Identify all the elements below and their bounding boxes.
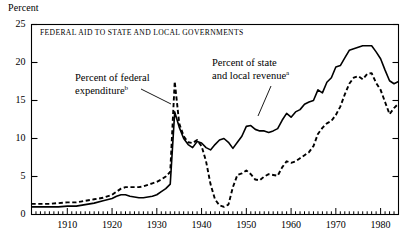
- series-line-1: [32, 46, 399, 207]
- plot-area: [0, 0, 409, 249]
- y-tick-label: 25: [4, 18, 26, 29]
- x-tick-label: 1980: [361, 219, 401, 230]
- x-tick-label: 1940: [182, 219, 222, 230]
- x-axis-ticks: [32, 208, 399, 215]
- y-tick-label: 10: [4, 132, 26, 143]
- y-tick-label: 0: [4, 208, 26, 219]
- y-tick-label: 15: [4, 94, 26, 105]
- figure-federal-aid: Percent FEDERAL AID TO STATE AND LOCAL G…: [0, 0, 409, 249]
- x-tick-label: 1960: [271, 219, 311, 230]
- x-tick-label: 1970: [316, 219, 356, 230]
- y-tick-label: 20: [4, 56, 26, 67]
- x-tick-label: 1930: [137, 219, 177, 230]
- data-series: [32, 46, 399, 207]
- x-tick-label: 1910: [47, 219, 87, 230]
- plot-frame: [32, 25, 399, 215]
- series-line-2: [32, 73, 399, 207]
- y-tick-label: 5: [4, 170, 26, 181]
- x-tick-label: 1950: [226, 219, 266, 230]
- x-tick-label: 1920: [92, 219, 132, 230]
- annotation-leader-lines: [141, 86, 271, 116]
